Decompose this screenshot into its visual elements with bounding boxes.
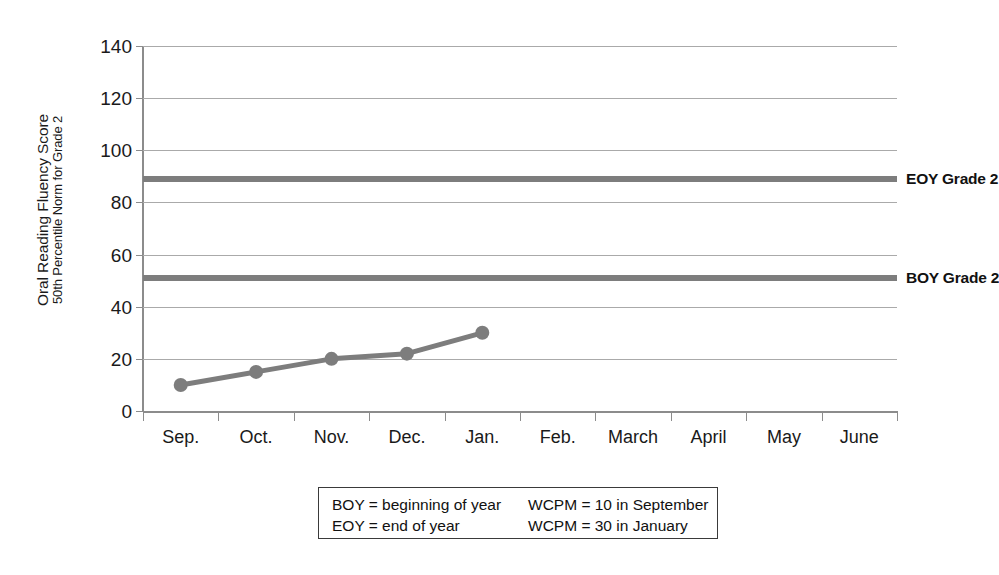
y-tick-label-120: 120 xyxy=(100,89,132,108)
legend-note-left-0: BOY = beginning of year xyxy=(332,495,528,515)
y-tick-label-0: 0 xyxy=(121,402,132,421)
x-tick-mark-1 xyxy=(218,412,219,421)
x-tick-mark-8 xyxy=(746,412,747,421)
legend-note-grid: BOY = beginning of yearWCPM = 10 in Sept… xyxy=(332,495,708,537)
x-tick-label-april: April xyxy=(690,428,726,446)
data-point-oct xyxy=(249,365,263,379)
x-tick-label-march: March xyxy=(608,428,658,446)
y-tick-mark-100 xyxy=(136,150,143,151)
x-tick-label-june: June xyxy=(840,428,879,446)
x-tick-mark-3 xyxy=(369,412,370,421)
legend-note-right-0: WCPM = 10 in September xyxy=(528,495,708,515)
x-tick-label-nov: Nov. xyxy=(314,428,350,446)
y-axis-title: Oral Reading Fluency Score 50th Percenti… xyxy=(0,0,100,420)
x-tick-label-sep: Sep. xyxy=(162,428,199,446)
legend-note-right-1: WCPM = 30 in January xyxy=(528,516,708,536)
x-tick-mark-6 xyxy=(595,412,596,421)
reference-label-eoy-grade-2: EOY Grade 2 xyxy=(906,170,998,188)
y-tick-mark-40 xyxy=(136,307,143,308)
x-tick-mark-10 xyxy=(897,412,898,421)
data-point-sep xyxy=(174,378,188,392)
y-tick-label-40: 40 xyxy=(111,297,132,316)
y-tick-mark-120 xyxy=(136,98,143,99)
data-point-jan xyxy=(475,326,489,340)
data-point-nov xyxy=(325,352,339,366)
y-tick-label-60: 60 xyxy=(111,245,132,264)
x-tick-mark-2 xyxy=(294,412,295,421)
y-tick-mark-140 xyxy=(136,46,143,47)
x-tick-mark-4 xyxy=(445,412,446,421)
reference-label-boy-grade-2: BOY Grade 2 xyxy=(906,269,999,287)
plot-area: 020406080100120140 xyxy=(143,46,897,411)
y-axis-title-secondary: 50th Percentile Norm for Grade 2 xyxy=(51,114,66,306)
y-tick-label-140: 140 xyxy=(100,37,132,56)
x-tick-mark-9 xyxy=(822,412,823,421)
x-tick-mark-5 xyxy=(520,412,521,421)
x-tick-mark-0 xyxy=(143,412,144,421)
data-point-dec xyxy=(400,347,414,361)
legend-note-left-1: EOY = end of year xyxy=(332,516,528,536)
x-tick-label-dec: Dec. xyxy=(388,428,425,446)
series-line xyxy=(143,46,897,411)
x-tick-label-jan: Jan. xyxy=(465,428,499,446)
y-tick-mark-0 xyxy=(136,411,143,412)
x-tick-label-may: May xyxy=(767,428,801,446)
y-tick-label-80: 80 xyxy=(111,193,132,212)
x-tick-label-oct: Oct. xyxy=(240,428,273,446)
y-tick-mark-20 xyxy=(136,359,143,360)
y-tick-mark-80 xyxy=(136,202,143,203)
y-tick-mark-60 xyxy=(136,255,143,256)
y-tick-label-20: 20 xyxy=(111,349,132,368)
legend-note-box: BOY = beginning of yearWCPM = 10 in Sept… xyxy=(318,487,718,539)
y-tick-label-100: 100 xyxy=(100,141,132,160)
y-axis-title-primary: Oral Reading Fluency Score xyxy=(34,114,51,306)
x-tick-label-feb: Feb. xyxy=(540,428,576,446)
x-tick-mark-7 xyxy=(671,412,672,421)
